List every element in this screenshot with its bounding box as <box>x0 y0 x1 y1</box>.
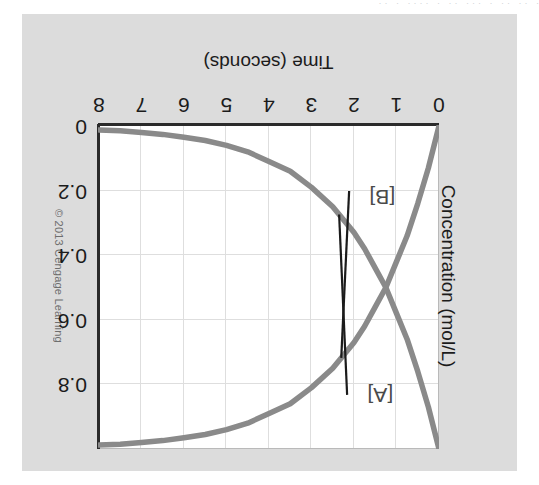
x-tick-label: 5 <box>212 93 242 117</box>
x-tick-label: 3 <box>297 93 327 117</box>
rotated-figure-stage: © 2013 Cengage Learning [A] [B] 01234567… <box>22 14 517 471</box>
y-tick-label: 0.4 <box>58 244 87 268</box>
x-axis-title: Time (seconds) <box>98 51 439 73</box>
figure-panel: © 2013 Cengage Learning [A] [B] 01234567… <box>22 14 517 471</box>
series-label-b: [B] <box>369 185 395 209</box>
top-edge-bleed-text: · ·· ·· · ··· ·· · ···· · ·· <box>0 0 539 9</box>
x-tick-label: 2 <box>339 93 369 117</box>
copyright-notice: © 2013 Cengage Learning <box>47 209 65 399</box>
series-label-a: [A] <box>367 383 393 407</box>
y-axis-title: Concentration (mol/L) <box>435 121 459 431</box>
y-tick-label: 0.6 <box>58 309 87 333</box>
y-tick-label: 0.8 <box>58 373 87 397</box>
x-tick-label: 7 <box>127 93 157 117</box>
x-tick-label: 1 <box>382 93 412 117</box>
x-tick-label: 0 <box>424 93 454 117</box>
x-tick-label: 8 <box>84 93 114 117</box>
y-tick-label: 0 <box>75 115 87 139</box>
x-tick-label: 6 <box>169 93 199 117</box>
y-tick-label: 0.2 <box>58 180 87 204</box>
x-tick-label: 4 <box>254 93 284 117</box>
